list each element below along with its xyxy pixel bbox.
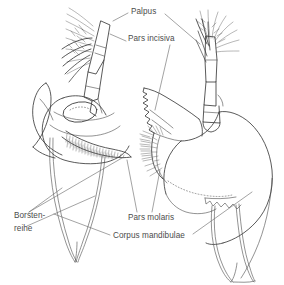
figure-container: Palpus Pars incisiva Borsten- reihe Pars… [0,0,284,285]
label-pars-incisiva: Pars incisiva [128,34,175,43]
label-corpus-mandibulae: Corpus mandibulae [113,231,185,240]
label-palpus: Palpus [131,7,156,16]
label-pars-molaris: Pars molaris [128,213,174,222]
mandible-diagram: Palpus Pars incisiva Borsten- reihe Pars… [0,0,284,285]
label-borstenreihe-line2: reihe [14,224,33,233]
label-borstenreihe-line1: Borsten- [14,211,46,220]
